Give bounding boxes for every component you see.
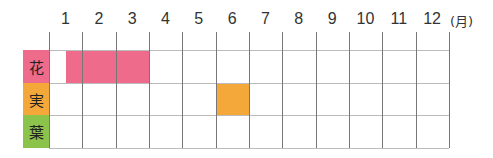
grid-line (349, 50, 350, 148)
grid-line (382, 50, 383, 148)
month-tick (282, 32, 283, 50)
grid-line (249, 50, 250, 148)
month-label: 6 (216, 10, 249, 28)
month-tick (316, 32, 317, 50)
row-label: 葉 (23, 115, 49, 148)
period-bar (216, 83, 249, 116)
month-label: 1 (49, 10, 82, 28)
month-tick (216, 32, 217, 50)
grid-line (49, 50, 50, 148)
month-tick (249, 32, 250, 50)
month-label: 2 (82, 10, 115, 28)
grid-line (449, 50, 450, 148)
month-label: 10 (349, 10, 382, 28)
grid-line (49, 148, 449, 149)
grid-line (82, 50, 83, 148)
grid-line (416, 50, 417, 148)
month-tick (182, 32, 183, 50)
unit-label: (月) (450, 11, 473, 30)
month-tick (349, 32, 350, 50)
month-label: 12 (416, 10, 449, 28)
grid-line (216, 50, 217, 148)
month-tick (382, 32, 383, 50)
month-label: 9 (316, 10, 349, 28)
grid-line (116, 50, 117, 148)
seasonal-calendar-chart: 123456789101112 (月) 花実葉 (0, 0, 493, 158)
month-tick (449, 32, 450, 50)
month-label: 11 (382, 10, 415, 28)
month-tick (416, 32, 417, 50)
row-label: 実 (23, 83, 49, 116)
month-tick (49, 32, 50, 50)
period-bar (66, 50, 149, 83)
month-tick (82, 32, 83, 50)
grid-line (282, 50, 283, 148)
month-label: 8 (282, 10, 315, 28)
month-tick (149, 32, 150, 50)
month-label: 4 (149, 10, 182, 28)
grid-line (149, 50, 150, 148)
month-label: 3 (116, 10, 149, 28)
grid-line (316, 50, 317, 148)
month-tick (116, 32, 117, 50)
month-label: 7 (249, 10, 282, 28)
row-label: 花 (23, 50, 49, 83)
grid-line (182, 50, 183, 148)
month-label: 5 (182, 10, 215, 28)
